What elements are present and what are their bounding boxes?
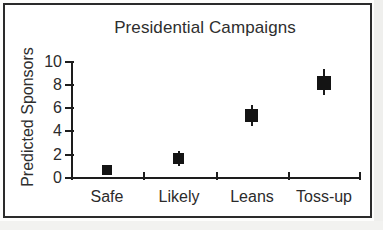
y-tick-label: 0 [36,170,62,186]
x-tick-mark [143,172,145,180]
y-tick-label: 4 [36,123,62,139]
data-marker-tossup [317,76,331,90]
data-marker-leans [245,109,258,122]
x-tick-mark [216,172,218,180]
y-tick-label: 6 [36,100,62,116]
x-tick-label-tossup: Toss-up [279,188,369,206]
y-tick-mark [65,154,74,156]
data-marker-likely [173,153,184,164]
y-tick-label: 2 [36,147,62,163]
y-tick-mark [65,130,74,132]
figure-plate: Presidential Campaigns Predicted Sponsor… [0,0,383,230]
y-axis-line [71,62,73,179]
y-tick-label: 10 [36,54,62,70]
x-tick-mark [71,172,73,180]
data-marker-safe [102,165,112,175]
y-tick-mark [65,61,74,63]
x-tick-mark [288,172,290,180]
y-tick-mark [65,107,74,109]
y-tick-label: 8 [36,77,62,93]
y-tick-mark [65,84,74,86]
plot-area: 0 2 4 6 8 10 Safe Likely Leans Toss-up [0,0,383,230]
x-tick-mark [359,172,361,180]
